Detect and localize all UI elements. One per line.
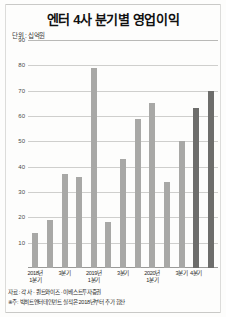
x-axis-tick-label-line: 3분기 <box>58 270 70 277</box>
bar <box>32 233 38 269</box>
bar <box>135 119 141 269</box>
bar <box>193 108 199 268</box>
y-axis-tick-label: 40 <box>18 164 25 170</box>
chart-title: 엔터 4사 분기별 영업이익 <box>0 9 226 28</box>
x-axis-tick-label-line: 4분기 <box>190 270 202 277</box>
x-axis-tick-label: 4분기 <box>190 270 202 277</box>
figure-left-edge <box>5 4 6 313</box>
bar <box>62 174 68 268</box>
bar <box>120 159 126 268</box>
bar <box>179 141 185 268</box>
bar <box>164 182 170 268</box>
x-axis-tick-label-line: 1분기 <box>86 277 102 284</box>
bar <box>47 220 53 268</box>
y-axis-tick-label: 10 <box>18 240 25 246</box>
x-axis-tick-label: 2018년1분기 <box>27 270 43 285</box>
bar <box>91 68 97 268</box>
x-axis-tick-label-line: 3분기 <box>117 270 129 277</box>
y-axis-tick-label: 50 <box>18 138 25 144</box>
x-axis-tick-label: 3분기 <box>117 270 129 277</box>
y-axis-tick-label: 20 <box>18 214 25 220</box>
y-axis-tick-label: 60 <box>18 113 25 119</box>
x-axis-tick-label-line: 1분기 <box>144 277 160 284</box>
gridline: 50 <box>28 141 218 142</box>
figure-bottom-rule <box>6 312 220 313</box>
gridline: 80 <box>28 65 218 66</box>
y-axis-tick-label: 80 <box>18 62 25 68</box>
plot-area: 908070605040302010 <box>28 40 218 268</box>
x-axis-tick-label: 2020년1분기 <box>144 270 160 285</box>
chart-figure: 엔터 4사 분기별 영업이익 단위 : 십억원 9080706050403020… <box>0 0 226 317</box>
unit-label: 단위 : 십억원 <box>12 30 45 40</box>
x-axis-tick-label-line: 3분기 <box>175 270 187 277</box>
bar <box>105 222 111 268</box>
y-axis-tick-label: 30 <box>18 189 25 195</box>
source-note: 자료 : 각 사 · 퀀트와이즈 · 이베스트투자증권 <box>8 288 101 296</box>
bar <box>149 103 155 268</box>
gridline: 70 <box>28 91 218 92</box>
bar <box>76 177 82 268</box>
y-axis-tick-label: 90 <box>18 37 25 43</box>
x-axis-tick-label: 3분기 <box>175 270 187 277</box>
figure-right-edge <box>220 4 221 313</box>
footnote: ※주: 빅히트엔터테인먼트 실적은 2018년부터 추가 합산 <box>8 298 125 306</box>
x-axis-tick-label: 3분기 <box>58 270 70 277</box>
bar <box>208 91 214 268</box>
gridline: 60 <box>28 116 218 117</box>
x-axis-tick-label-line: 1분기 <box>27 277 43 284</box>
y-axis-tick-label: 70 <box>18 88 25 94</box>
gridline: 90 <box>28 40 218 41</box>
x-axis-tick-labels: 2018년1분기3분기2019년1분기3분기2020년1분기3분기4분기 <box>28 270 218 288</box>
x-axis-tick-label: 2019년1분기 <box>86 270 102 285</box>
figure-top-rule <box>6 4 220 5</box>
